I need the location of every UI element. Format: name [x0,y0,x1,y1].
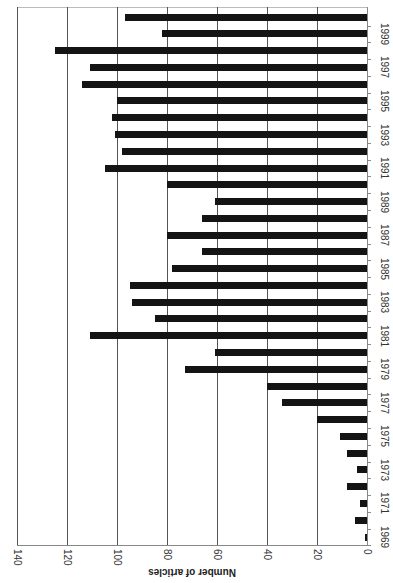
category-tick-label: 1985 [379,258,390,280]
bar-1988 [202,215,367,222]
bar-1993 [115,131,368,138]
bar-1995 [117,97,367,104]
bar-1984 [130,282,368,289]
category-tick-label: 1971 [379,492,390,514]
category-tick [367,244,371,245]
category-tick-label: 1987 [379,224,390,246]
category-tick [367,160,371,161]
value-tick-label: 40 [262,549,273,560]
category-tick-label: 1989 [379,190,390,212]
category-tick-label: 1981 [379,325,390,347]
gridline-120 [67,7,68,545]
bar-1977 [282,399,367,406]
bar-1994 [112,114,367,121]
category-tick-label: 1997 [379,56,390,78]
category-tick-label: 1993 [379,123,390,145]
value-tick-label: 100 [112,549,123,566]
category-tick [367,411,371,412]
category-tick-label: 1995 [379,90,390,112]
category-tick-label: 1999 [379,23,390,45]
category-axis-line [367,7,368,545]
value-tick-label: 120 [62,549,73,566]
bar-1999 [162,30,367,37]
category-tick [367,227,371,228]
category-tick [367,529,371,530]
bar-1990 [167,181,367,188]
bar-1985 [172,265,367,272]
bar-1991 [105,165,368,172]
category-tick-label: 1979 [379,358,390,380]
category-tick [367,109,371,110]
value-axis-title: Number of articles [148,567,236,578]
category-tick [367,143,371,144]
value-tick-label: 140 [12,549,23,566]
category-tick [367,76,371,77]
category-tick-label: 1973 [379,459,390,481]
bar-1971 [360,500,368,507]
value-tick-label: 60 [212,549,223,560]
category-tick-label: 1977 [379,392,390,414]
bar-1989 [215,198,368,205]
category-tick-label: 1969 [379,526,390,548]
bar-1974 [347,450,367,457]
bar-1973 [357,466,367,473]
gridline-140 [17,7,18,545]
value-tick-label: 80 [162,549,173,560]
category-tick [367,277,371,278]
category-tick [367,294,371,295]
category-tick [367,210,371,211]
bar-1996 [82,81,367,88]
bar-1975 [340,433,368,440]
category-tick [367,495,371,496]
category-tick [367,394,371,395]
category-tick [367,462,371,463]
value-tick-label: 0 [362,549,373,555]
bar-1970 [355,517,368,524]
category-tick [367,126,371,127]
category-tick-label: 1983 [379,291,390,313]
category-tick [367,545,371,546]
category-tick [367,42,371,43]
category-tick [367,445,371,446]
bar-1982 [155,315,368,322]
bar-1981 [90,332,368,339]
value-axis-line [17,545,368,546]
category-tick [367,378,371,379]
bar-1986 [202,248,367,255]
bar-1980 [215,349,368,356]
bar-1983 [132,299,367,306]
category-tick [367,512,371,513]
value-tick-label: 20 [312,549,323,560]
bar-1992 [122,148,367,155]
bar-1978 [267,383,367,390]
bar-1976 [317,416,367,423]
category-tick-label: 1975 [379,425,390,447]
category-tick [367,193,371,194]
category-tick [367,26,371,27]
bar-1998 [55,47,368,54]
bar-1979 [185,366,368,373]
category-tick-label: 1991 [379,157,390,179]
category-tick [367,478,371,479]
bar-1972 [347,483,367,490]
bar-1997 [90,64,368,71]
category-tick [367,327,371,328]
category-tick [367,260,371,261]
category-tick [367,311,371,312]
category-tick [367,59,371,60]
bar-2000 [125,14,368,21]
category-tick [367,428,371,429]
bar-1987 [167,232,367,239]
category-tick [367,344,371,345]
category-tick [367,176,371,177]
bar-chart: 020406080100120140 196919711973197519771… [0,0,393,583]
category-tick [367,361,371,362]
category-tick [367,93,371,94]
